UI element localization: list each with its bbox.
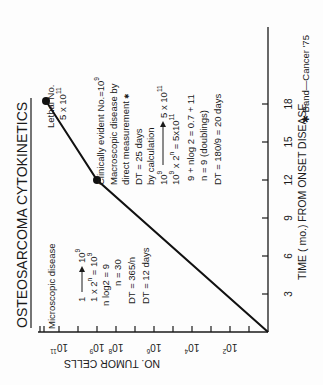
clinical-line-7: 109 x 2n = 5x1011 bbox=[168, 113, 181, 185]
x-axis-title: TIME ( mo.) FROM ONSET DISEASE bbox=[296, 103, 308, 280]
y-tick-1e6: 106 bbox=[146, 342, 161, 355]
y-axis-title: NO. TUMOR CELLS bbox=[64, 358, 160, 370]
clinical-line-4: DT = 25 days bbox=[133, 128, 144, 185]
clinical-line-10: DT = 180/9 = 20 days bbox=[212, 94, 223, 185]
y-ticks bbox=[40, 326, 249, 332]
y-tick-1e9: 109 bbox=[89, 342, 104, 355]
y-tick-1e11: 1011 bbox=[50, 342, 68, 355]
rotated-chart: OSTEOSARCOMA CYTOKINETICS 3 6 9 12 15 18 bbox=[0, 0, 323, 385]
clinical-line-1: Clinically evident No.=109 bbox=[93, 77, 106, 185]
y-tick-1e8: 108 bbox=[108, 342, 123, 355]
clinical-line-2: Macroscopic disease by bbox=[108, 83, 119, 185]
micro-line-2: 1 x 2n = 109 bbox=[86, 252, 99, 302]
x-tick-15: 15 bbox=[283, 136, 294, 148]
x-tick-12: 12 bbox=[283, 174, 294, 186]
x-tick-labels: 3 6 9 12 15 18 bbox=[283, 98, 294, 297]
y-tick-labels: 102 104 106 108 109 1011 bbox=[50, 342, 238, 355]
lethal-value: 5 x 1011 bbox=[55, 87, 68, 120]
micro-line-1: 1 bbox=[76, 297, 87, 302]
clinical-line-9: n = 9 (doublings) bbox=[198, 110, 209, 181]
clinical-line-3: direct measurement✱ bbox=[120, 93, 131, 185]
micro-heading: Microscopic disease bbox=[46, 243, 57, 329]
clinical-line-5: by calculation bbox=[145, 127, 156, 185]
micro-line-4: n = 30 bbox=[112, 259, 123, 286]
chart-title: OSTEOSARCOMA CYTOKINETICS bbox=[14, 102, 30, 328]
x-ticks bbox=[262, 104, 268, 294]
x-tick-6: 6 bbox=[283, 253, 294, 259]
micro-calc: 1 109 1 x 2n = 109 n log2 = 9 n = 30 DT … bbox=[74, 247, 151, 306]
micro-line-5: DT = 365/n bbox=[126, 257, 137, 304]
micro-line-6: DT = 12 days bbox=[140, 247, 151, 304]
x-tick-18: 18 bbox=[283, 98, 294, 110]
clinical-block: Clinically evident No.=109 Macroscopic d… bbox=[93, 77, 223, 185]
clinical-line-8: 9 + nlog 2 = 0.7 + 11 bbox=[185, 94, 196, 181]
micro-line-3: n log2 = 9 bbox=[100, 264, 111, 306]
arrowhead-icon bbox=[160, 121, 166, 127]
x-tick-9: 9 bbox=[283, 215, 294, 221]
arrowhead-icon bbox=[79, 266, 85, 272]
chart-stage: OSTEOSARCOMA CYTOKINETICS 3 6 9 12 15 18 bbox=[0, 0, 323, 385]
x-tick-3: 3 bbox=[283, 291, 294, 297]
y-tick-1e4: 104 bbox=[184, 342, 199, 355]
footnote: ✱ Band—Cancer '75 bbox=[300, 35, 311, 123]
y-tick-1e2: 102 bbox=[222, 342, 237, 355]
